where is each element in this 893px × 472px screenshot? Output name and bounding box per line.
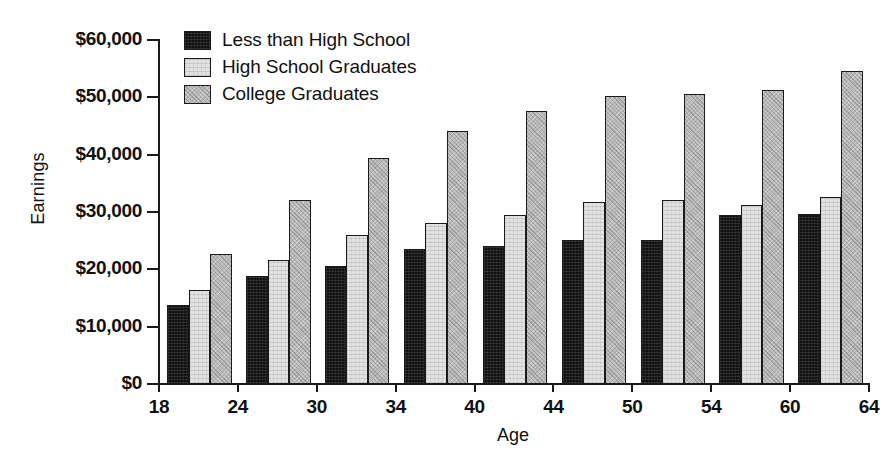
- bar-54-60-series-3: [762, 90, 784, 384]
- bar-34-40-series-3: [447, 131, 469, 384]
- x-tick-label-24: 24: [228, 396, 249, 418]
- x-tick-label-54: 54: [701, 396, 722, 418]
- x-tick-mark-18: [158, 383, 160, 392]
- x-axis-title: Age: [158, 425, 868, 446]
- bar-30-34-series-2: [346, 235, 368, 384]
- x-tick-mark-64: [868, 383, 870, 392]
- bar-40-44-series-2: [504, 215, 526, 384]
- x-tick-mark-54: [710, 383, 712, 392]
- bar-40-44-series-3: [526, 111, 548, 384]
- y-tick-label: $30,000: [75, 200, 142, 222]
- bar-44-50-series-2: [583, 202, 605, 384]
- y-tick-label: $20,000: [75, 257, 142, 279]
- legend-label-college-graduates: College Graduates: [222, 83, 379, 105]
- y-tick-mark: [147, 39, 158, 41]
- bar-60-64-series-3: [841, 71, 863, 384]
- y-tick-label: $60,000: [75, 28, 142, 50]
- bar-54-60-series-1: [719, 215, 741, 384]
- x-tick-mark-44: [552, 383, 554, 392]
- x-tick-label-30: 30: [306, 396, 327, 418]
- earnings-by-age-and-education-bar-chart: Earnings $0$10,000$20,000$30,000$40,000$…: [0, 0, 893, 472]
- legend-item-high-school-graduates: High School Graduates: [184, 55, 416, 79]
- y-tick-label: $10,000: [75, 315, 142, 337]
- swatch-less-than-high-school-icon: [184, 31, 211, 50]
- bar-30-34-series-3: [368, 158, 390, 384]
- x-tick-label-34: 34: [385, 396, 406, 418]
- bar-34-40-series-1: [404, 249, 426, 384]
- chart-legend: Less than High School High School Gradua…: [184, 28, 416, 106]
- bar-24-30-series-3: [289, 200, 311, 384]
- bar-30-34-series-1: [325, 266, 347, 384]
- y-axis-title: Earnings: [28, 129, 49, 249]
- y-tick-label: $50,000: [75, 85, 142, 107]
- x-tick-label-44: 44: [543, 396, 564, 418]
- y-tick-mark: [147, 154, 158, 156]
- x-tick-mark-24: [237, 383, 239, 392]
- bar-50-54-series-1: [641, 240, 663, 384]
- swatch-college-graduates-icon: [184, 85, 211, 104]
- x-tick-mark-30: [316, 383, 318, 392]
- bar-44-50-series-1: [562, 240, 584, 384]
- x-tick-label-64: 64: [859, 396, 880, 418]
- bar-18-24-series-1: [167, 305, 189, 384]
- bar-60-64-series-2: [820, 197, 842, 384]
- legend-label-high-school-graduates: High School Graduates: [222, 56, 416, 78]
- y-tick-mark: [147, 326, 158, 328]
- x-tick-mark-34: [395, 383, 397, 392]
- bar-18-24-series-3: [210, 254, 232, 384]
- x-tick-label-18: 18: [149, 396, 170, 418]
- x-tick-label-50: 50: [622, 396, 643, 418]
- y-tick-mark: [147, 211, 158, 213]
- x-tick-label-60: 60: [780, 396, 801, 418]
- bar-34-40-series-2: [425, 223, 447, 384]
- y-tick-label: $0: [121, 372, 142, 394]
- legend-item-college-graduates: College Graduates: [184, 82, 416, 106]
- bar-40-44-series-1: [483, 246, 505, 384]
- x-tick-mark-40: [474, 383, 476, 392]
- x-tick-mark-50: [631, 383, 633, 392]
- swatch-high-school-graduates-icon: [184, 58, 211, 77]
- bar-24-30-series-2: [268, 260, 290, 384]
- x-tick-label-40: 40: [464, 396, 485, 418]
- bar-44-50-series-3: [605, 96, 627, 384]
- y-tick-mark: [147, 96, 158, 98]
- x-tick-mark-60: [789, 383, 791, 392]
- legend-label-less-than-high-school: Less than High School: [222, 29, 410, 51]
- y-tick-mark: [147, 268, 158, 270]
- legend-item-less-than-high-school: Less than High School: [184, 28, 416, 52]
- y-tick-label: $40,000: [75, 143, 142, 165]
- bar-24-30-series-1: [246, 276, 268, 384]
- y-tick-mark: [147, 383, 158, 385]
- bar-60-64-series-1: [798, 214, 820, 384]
- bar-54-60-series-2: [741, 205, 763, 384]
- bar-18-24-series-2: [189, 290, 211, 384]
- bar-50-54-series-2: [662, 200, 684, 384]
- bar-50-54-series-3: [684, 94, 706, 384]
